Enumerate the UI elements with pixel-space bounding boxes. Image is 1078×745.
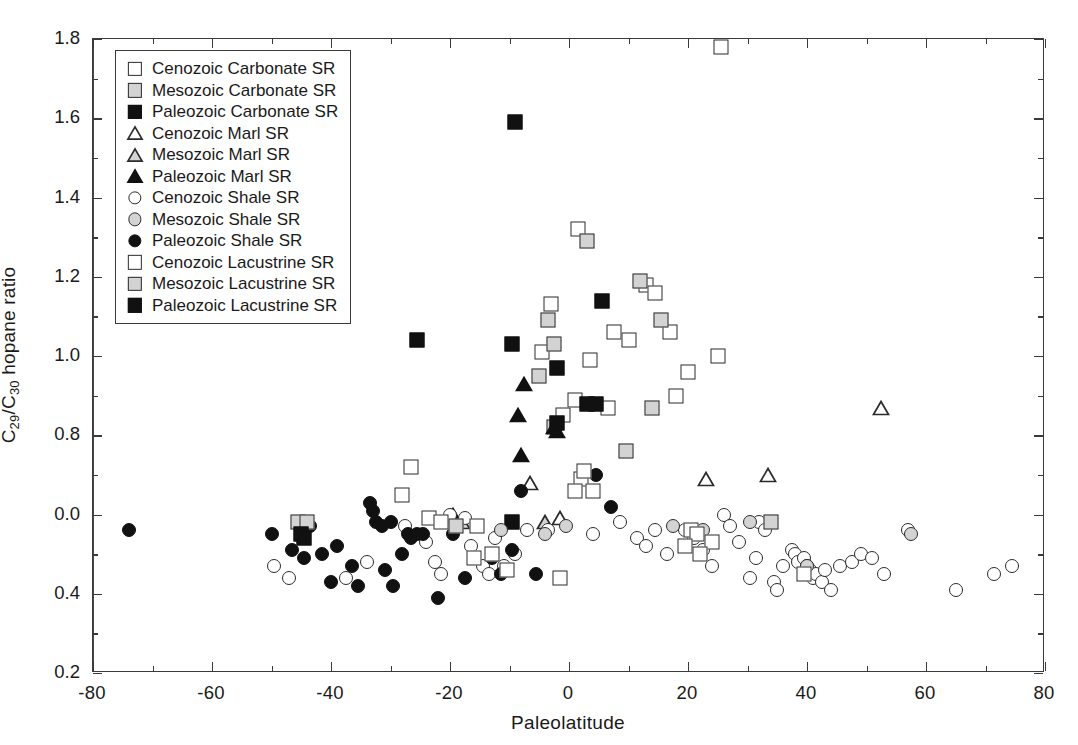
- figure: C29/C30 hopane ratio Paleolatitude -80-6…: [0, 0, 1078, 745]
- y-tick-minor: [93, 158, 98, 159]
- data-point: [513, 448, 530, 463]
- data-point: [681, 364, 696, 379]
- data-point: [697, 471, 714, 486]
- y-tick-label: 1.2: [54, 265, 80, 287]
- circle-half-icon: [125, 209, 145, 229]
- triangle-fill-icon: [125, 166, 145, 186]
- x-tick-label: 0: [563, 682, 574, 704]
- data-point: [723, 519, 737, 533]
- data-point: [660, 547, 674, 561]
- diamond-open-icon: [125, 252, 145, 272]
- y-tick-minor: [93, 554, 98, 555]
- y-tick-major: [93, 118, 102, 119]
- y-tick-minor: [93, 237, 98, 238]
- circle-open-icon: [125, 188, 145, 208]
- legend-item: Mesozoic Lacustrine SR: [125, 273, 338, 295]
- legend-item-label: Paleozoic Marl SR: [152, 168, 292, 185]
- data-point: [378, 563, 392, 577]
- legend-item-label: Cenozoic Marl SR: [152, 125, 289, 142]
- legend-item: Cenozoic Carbonate SR: [125, 58, 338, 80]
- x-tick-top: [450, 39, 451, 48]
- data-point: [499, 562, 514, 577]
- data-point: [633, 273, 648, 288]
- data-point: [122, 523, 136, 537]
- y-tick-label: 0.2: [54, 661, 80, 683]
- data-point: [448, 519, 463, 534]
- y-tick-right: [1038, 79, 1043, 80]
- x-tick-top: [510, 39, 511, 44]
- data-point: [669, 388, 684, 403]
- x-tick-label: 40: [796, 682, 817, 704]
- legend-item: Mesozoic Carbonate SR: [125, 80, 338, 102]
- y-tick-minor: [93, 316, 98, 317]
- data-point: [613, 515, 627, 529]
- x-tick-major: [807, 662, 808, 671]
- data-point: [510, 408, 527, 423]
- x-tick-label: 20: [677, 682, 698, 704]
- y-tick-minor: [93, 396, 98, 397]
- data-point: [648, 285, 663, 300]
- data-point: [576, 463, 591, 478]
- y-tick-label: 1.6: [54, 106, 80, 128]
- data-point: [395, 487, 410, 502]
- legend: Cenozoic Carbonate SRMesozoic Carbonate …: [115, 50, 351, 324]
- data-point: [315, 547, 329, 561]
- legend-item: Cenozoic Marl SR: [125, 123, 338, 145]
- x-tick-label: -40: [316, 682, 343, 704]
- data-point: [508, 115, 523, 130]
- y-tick-right: [1034, 39, 1043, 40]
- data-point: [410, 333, 425, 348]
- data-point: [494, 523, 508, 537]
- x-tick-top: [331, 39, 332, 48]
- data-point: [749, 551, 763, 565]
- y-tick-right: [1038, 633, 1043, 634]
- data-point: [514, 484, 528, 498]
- data-point: [666, 519, 680, 533]
- x-tick-label: 60: [915, 682, 936, 704]
- x-tick-major: [450, 662, 451, 671]
- data-point: [618, 444, 633, 459]
- data-point: [532, 368, 547, 383]
- legend-item-label: Mesozoic Marl SR: [152, 146, 290, 163]
- data-point: [797, 566, 812, 581]
- y-tick-right: [1034, 277, 1043, 278]
- y-tick-major: [93, 356, 102, 357]
- y-tick-right: [1038, 158, 1043, 159]
- y-tick-right: [1034, 198, 1043, 199]
- x-tick-minor: [391, 666, 392, 671]
- data-point: [904, 527, 918, 541]
- data-point: [678, 539, 693, 554]
- legend-item-label: Paleozoic Shale SR: [152, 232, 302, 249]
- data-point: [621, 333, 636, 348]
- triangle-half-icon: [125, 145, 145, 165]
- data-point: [395, 547, 409, 561]
- y-axis-title: C29/C30 hopane ratio: [0, 267, 22, 444]
- data-point: [541, 313, 556, 328]
- x-tick-minor: [867, 666, 868, 671]
- data-point: [267, 559, 281, 573]
- data-point: [865, 551, 879, 565]
- data-point: [559, 519, 573, 533]
- data-point: [949, 583, 963, 597]
- data-point: [818, 563, 832, 577]
- x-tick-major: [926, 662, 927, 671]
- data-point: [404, 459, 419, 474]
- zero-reference-line: [93, 39, 94, 671]
- data-point: [710, 349, 725, 364]
- legend-item-label: Cenozoic Lacustrine SR: [152, 254, 334, 271]
- legend-item: Cenozoic Shale SR: [125, 187, 338, 209]
- x-tick-label: -60: [197, 682, 224, 704]
- data-point: [505, 543, 519, 557]
- data-point: [713, 39, 728, 54]
- legend-item-label: Mesozoic Carbonate SR: [152, 82, 336, 99]
- x-tick-minor: [153, 666, 154, 671]
- data-point: [582, 352, 597, 367]
- y-tick-major: [93, 198, 102, 199]
- data-point: [567, 483, 582, 498]
- data-point: [345, 559, 359, 573]
- data-point: [520, 523, 534, 537]
- data-point: [544, 297, 559, 312]
- x-tick-top: [986, 39, 987, 44]
- data-point: [416, 527, 430, 541]
- data-point: [330, 539, 344, 553]
